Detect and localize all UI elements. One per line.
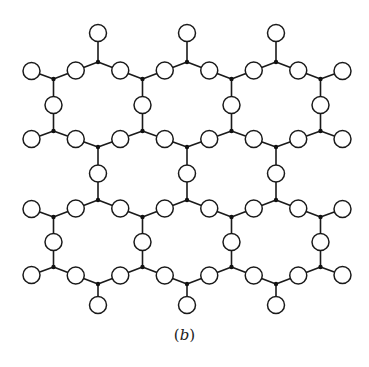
oxygen-atom (245, 131, 262, 148)
oxygen-atom (45, 234, 62, 251)
oxygen-atom (23, 131, 40, 148)
oxygen-atom (201, 200, 218, 217)
tetrahedral-node (96, 282, 100, 286)
oxygen-atom (201, 267, 218, 284)
oxygen-atom (179, 165, 196, 182)
tetrahedral-node (274, 60, 278, 64)
tetrahedral-node (185, 60, 189, 64)
tetrahedral-node (51, 215, 55, 219)
tetrahedral-node (274, 198, 278, 202)
oxygen-atom (156, 267, 173, 284)
tetrahedral-node (185, 145, 189, 149)
oxygen-atom (312, 97, 329, 114)
oxygen-atom (312, 234, 329, 251)
tetrahedral-node (229, 265, 233, 269)
oxygen-atom (290, 131, 307, 148)
oxygen-atom (179, 297, 196, 314)
tetrahedral-node (140, 215, 144, 219)
oxygen-atom (290, 267, 307, 284)
tetrahedral-node (318, 265, 322, 269)
oxygen-atom (201, 62, 218, 79)
oxygen-atom (245, 200, 262, 217)
oxygen-atoms-layer (23, 25, 351, 314)
oxygen-atom (112, 200, 129, 217)
oxygen-atom (23, 267, 40, 284)
oxygen-atom (245, 267, 262, 284)
tetrahedral-node (51, 77, 55, 81)
oxygen-atom (268, 25, 285, 42)
oxygen-atom (201, 131, 218, 148)
silicate-sheet-diagram (0, 0, 369, 367)
oxygen-atom (334, 267, 351, 284)
oxygen-atom (156, 131, 173, 148)
tetrahedral-node (318, 77, 322, 81)
oxygen-atom (179, 25, 196, 42)
oxygen-atom (112, 62, 129, 79)
oxygen-atom (156, 200, 173, 217)
oxygen-atom (268, 297, 285, 314)
oxygen-atom (23, 201, 40, 218)
tetrahedral-node (185, 198, 189, 202)
caption-label: b (180, 326, 190, 344)
tetrahedral-node (51, 265, 55, 269)
tetrahedral-node (96, 145, 100, 149)
tetrahedral-node (229, 77, 233, 81)
tetrahedral-node (140, 265, 144, 269)
tetrahedral-node (229, 129, 233, 133)
tetrahedral-node (96, 198, 100, 202)
oxygen-atom (23, 63, 40, 80)
oxygen-atom (334, 201, 351, 218)
oxygen-atom (245, 62, 262, 79)
oxygen-atom (90, 165, 107, 182)
oxygen-atom (334, 131, 351, 148)
tetrahedral-node (274, 282, 278, 286)
tetrahedral-node (318, 215, 322, 219)
oxygen-atom (134, 97, 151, 114)
tetrahedral-node (229, 215, 233, 219)
oxygen-atom (67, 131, 84, 148)
caption-close-paren: ) (189, 326, 195, 344)
tetrahedral-node (51, 129, 55, 133)
tetrahedral-node (318, 129, 322, 133)
tetrahedral-node (274, 145, 278, 149)
tetrahedral-node (140, 129, 144, 133)
oxygen-atom (67, 267, 84, 284)
oxygen-atom (290, 200, 307, 217)
oxygen-atom (268, 165, 285, 182)
oxygen-atom (90, 297, 107, 314)
oxygen-atom (90, 25, 107, 42)
oxygen-atom (67, 62, 84, 79)
oxygen-atom (134, 234, 151, 251)
oxygen-atom (223, 234, 240, 251)
figure-caption: (b) (0, 326, 369, 344)
oxygen-atom (156, 62, 173, 79)
oxygen-atom (112, 131, 129, 148)
oxygen-atom (67, 200, 84, 217)
oxygen-atom (112, 267, 129, 284)
oxygen-atom (223, 97, 240, 114)
tetrahedral-node (140, 77, 144, 81)
oxygen-atom (334, 63, 351, 80)
oxygen-atom (290, 62, 307, 79)
tetrahedral-node (185, 282, 189, 286)
oxygen-atom (45, 97, 62, 114)
tetrahedral-node (96, 60, 100, 64)
